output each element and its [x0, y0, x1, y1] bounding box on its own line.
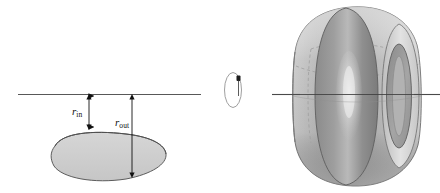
band-highlight-core — [343, 66, 355, 118]
figure-canvas: rin rout — [0, 0, 440, 193]
profile-ellipse — [225, 73, 242, 108]
solid-of-revolution — [293, 7, 422, 186]
figure-drawing — [0, 0, 440, 193]
label-r-in: rin — [72, 106, 82, 119]
label-r-out: rout — [115, 117, 129, 130]
right-hole-core — [393, 56, 406, 136]
r-in-arrow — [86, 94, 91, 130]
lens-cross-section — [51, 132, 166, 180]
label-r-in-subscript: in — [76, 110, 82, 119]
label-r-out-subscript: out — [119, 121, 129, 130]
